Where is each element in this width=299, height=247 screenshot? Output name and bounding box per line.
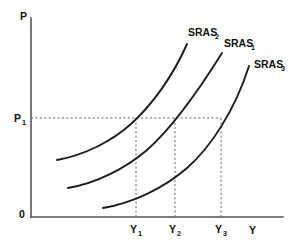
sras-curve-1 <box>68 53 222 188</box>
sras-diagram: P Y 0 P 1 Y 1 Y 2 Y 3 SRAS 2 SRAS 1 <box>0 0 299 247</box>
curve-label-sras3: SRAS 3 <box>254 58 285 73</box>
price-tick-subscript: 1 <box>22 118 26 127</box>
diagram-canvas: P Y 0 P 1 Y 1 Y 2 Y 3 SRAS 2 SRAS 1 <box>0 0 299 247</box>
sras-curve-3 <box>103 66 249 208</box>
y-axis-label: P <box>20 10 27 22</box>
output-tick-label-y2: Y 2 <box>169 223 181 238</box>
curve-label-base: SRAS <box>254 58 283 70</box>
curve-label-subscript: 1 <box>251 43 255 52</box>
output-tick-subscript: 1 <box>138 229 142 238</box>
price-tick-label-p1: P 1 <box>14 112 26 127</box>
curve-label-sras2: SRAS 2 <box>188 26 219 41</box>
x-axis-label: Y <box>249 224 256 236</box>
output-tick-subscript: 3 <box>223 229 227 238</box>
output-tick-label-y3: Y 3 <box>215 223 227 238</box>
curve-label-subscript: 3 <box>281 64 285 73</box>
curve-label-subscript: 2 <box>215 32 219 41</box>
curve-label-sras1: SRAS 1 <box>224 37 255 52</box>
origin-label: 0 <box>19 208 25 220</box>
output-tick-label-y1: Y 1 <box>130 223 142 238</box>
output-tick-subscript: 2 <box>177 229 181 238</box>
output-tick-base: Y <box>130 223 137 235</box>
output-tick-base: Y <box>215 223 222 235</box>
sras-curve-2 <box>57 44 187 160</box>
curve-label-base: SRAS <box>224 37 253 49</box>
price-tick-base: P <box>14 112 21 124</box>
curve-label-base: SRAS <box>188 26 217 38</box>
output-tick-base: Y <box>169 223 176 235</box>
